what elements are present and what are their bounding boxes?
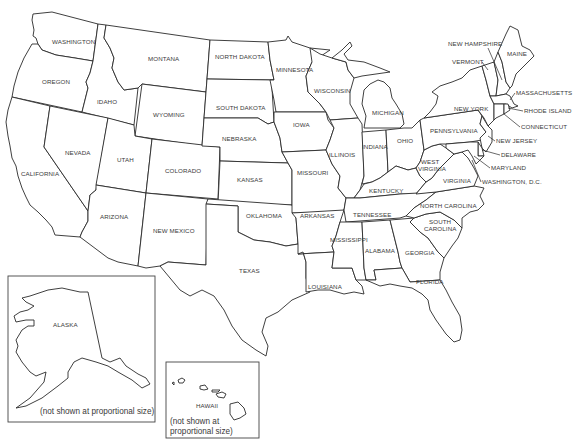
hawaii-inset-note-2: proportional size): [170, 427, 233, 436]
label-utah: UTAH: [117, 156, 134, 163]
label-new-mexico: NEW MEXICO: [153, 227, 195, 234]
label-california: CALIFORNIA: [21, 170, 60, 177]
label-kentucky: KENTUCKY: [369, 187, 404, 194]
label-north-dakota: NORTH DAKOTA: [215, 53, 266, 60]
label-south-carolina-1: SOUTH: [429, 218, 451, 225]
label-wisconsin: WISCONSIN: [314, 87, 351, 94]
state-connecticut[interactable]: [494, 104, 504, 120]
label-florida: FLORIDA: [416, 278, 444, 285]
hawaii-inset-note-1: (not shown at: [170, 417, 220, 426]
state-michigan-lower[interactable]: [362, 80, 404, 128]
label-louisiana: LOUISIANA: [308, 283, 343, 290]
label-oregon: OREGON: [42, 78, 70, 85]
state-south-dakota[interactable]: [204, 79, 274, 124]
label-pennsylvania: PENNSYLVANIA: [430, 127, 479, 134]
label-colorado: COLORADO: [165, 167, 201, 174]
label-new-york: NEW YORK: [454, 105, 489, 112]
label-west-virginia-2: VIRGINIA: [418, 165, 447, 172]
label-minnesota: MINNESOTA: [276, 66, 314, 73]
label-delaware: DELAWARE: [501, 151, 536, 158]
label-texas: TEXAS: [239, 267, 260, 274]
label-south-dakota: SOUTH DAKOTA: [216, 104, 266, 111]
alaska-inset-note: (not shown at proportional size): [40, 407, 155, 416]
label-alabama: ALABAMA: [365, 247, 396, 254]
label-maryland: MARYLAND: [491, 164, 527, 171]
state-arizona[interactable]: [80, 185, 146, 266]
label-arkansas: ARKANSAS: [300, 212, 335, 219]
label-new-hampshire: NEW HAMPSHIRE: [448, 40, 502, 47]
label-alaska: ALASKA: [53, 321, 78, 328]
hawaii-island-molokai[interactable]: [212, 390, 220, 392]
label-west-virginia-1: WEST: [421, 158, 439, 165]
label-new-jersey: NEW JERSEY: [496, 137, 537, 144]
label-south-carolina-2: CAROLINA: [424, 225, 457, 232]
us-map: WASHINGTON OREGON CALIFORNIA IDAHO NEVAD…: [0, 0, 580, 447]
label-idaho: IDAHO: [97, 98, 117, 105]
label-washington: WASHINGTON: [52, 38, 95, 45]
leader-connecticut: [504, 114, 520, 127]
label-georgia: GEORGIA: [405, 249, 435, 256]
state-iowa[interactable]: [274, 112, 334, 152]
label-hawaii: HAWAII: [196, 402, 218, 409]
label-north-carolina: NORTH CAROLINA: [420, 202, 477, 209]
label-kansas: KANSAS: [237, 176, 263, 183]
label-illinois: ILLINOIS: [329, 151, 355, 158]
label-massachusetts: MASSACHUSETTS: [516, 89, 572, 96]
state-kansas[interactable]: [218, 161, 292, 205]
leader-delaware: [482, 150, 500, 155]
label-virginia: VIRGINIA: [443, 177, 472, 184]
label-oklahoma: OKLAHOMA: [246, 212, 283, 219]
label-arizona: ARIZONA: [100, 213, 129, 220]
label-nebraska: NEBRASKA: [222, 135, 257, 142]
label-michigan: MICHIGAN: [372, 109, 404, 116]
label-mississippi: MISSISSIPPI: [330, 236, 368, 243]
state-north-dakota[interactable]: [207, 40, 274, 80]
label-indiana: INDIANA: [362, 143, 389, 150]
label-maine: MAINE: [507, 50, 527, 57]
label-tennessee: TENNESSEE: [353, 211, 391, 218]
label-washington-dc: WASHINGTON, D.C.: [482, 178, 542, 185]
label-missouri: MISSOURI: [297, 169, 329, 176]
label-ohio: OHIO: [397, 137, 413, 144]
label-iowa: IOWA: [293, 121, 310, 128]
label-wyoming: WYOMING: [153, 111, 185, 118]
label-connecticut: CONNECTICUT: [521, 123, 567, 130]
label-montana: MONTANA: [148, 55, 180, 62]
label-nevada: NEVADA: [65, 149, 91, 156]
label-vermont: VERMONT: [452, 58, 484, 65]
label-rhode-island: RHODE ISLAND: [524, 107, 572, 114]
